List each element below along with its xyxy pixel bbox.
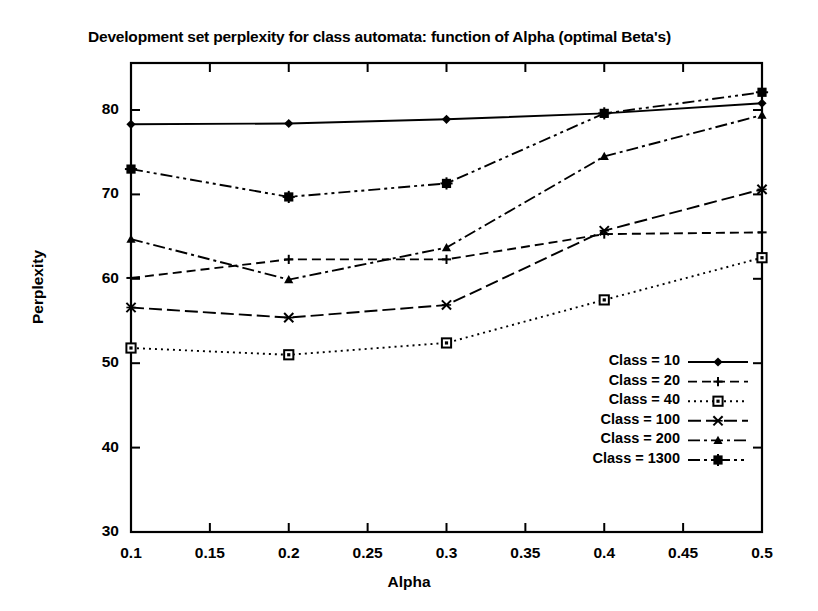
legend-entry-label: Class = 40	[530, 391, 680, 407]
y-tick-label: 50	[79, 353, 119, 371]
data-point-marker	[600, 295, 609, 304]
data-point-marker	[442, 243, 451, 251]
x-tick-label: 0.15	[180, 544, 240, 562]
legend-group	[688, 357, 748, 466]
data-point-marker	[442, 255, 451, 264]
data-point-marker	[440, 177, 452, 189]
data-point-marker	[442, 338, 451, 347]
data-point-marker	[284, 255, 293, 264]
y-tick-label: 30	[79, 522, 119, 540]
data-point-marker	[756, 86, 768, 98]
x-tick-label: 0.1	[101, 544, 161, 562]
y-tick-label: 80	[79, 100, 119, 118]
data-point-marker	[284, 119, 293, 128]
data-point-marker	[442, 115, 451, 124]
x-tick-label: 0.45	[653, 544, 713, 562]
y-tick-label: 70	[79, 184, 119, 202]
x-tick-label: 0.35	[495, 544, 555, 562]
series-line-3	[131, 189, 762, 317]
legend-entry-label: Class = 1300	[530, 450, 680, 466]
data-point-marker	[284, 350, 293, 359]
x-tick-label: 0.5	[732, 544, 792, 562]
x-tick-label: 0.25	[338, 544, 398, 562]
data-point-marker	[442, 300, 451, 309]
plot-area	[0, 0, 818, 611]
data-point-marker	[757, 228, 766, 237]
chart-figure: Development set perplexity for class aut…	[0, 0, 818, 611]
data-point-marker	[126, 120, 135, 129]
data-point-marker	[125, 163, 137, 175]
y-tick-label: 40	[79, 438, 119, 456]
data-point-marker	[126, 235, 135, 243]
data-point-marker	[757, 253, 766, 262]
data-point-marker	[712, 454, 724, 466]
x-tick-label: 0.2	[259, 544, 319, 562]
legend-entry-label: Class = 200	[530, 430, 680, 446]
data-point-marker	[598, 107, 610, 119]
data-point-marker	[284, 313, 293, 322]
legend-entry-label: Class = 100	[530, 411, 680, 427]
x-tick-label: 0.4	[574, 544, 634, 562]
data-point-marker	[713, 377, 722, 386]
data-point-marker	[126, 273, 135, 282]
data-point-marker	[713, 397, 722, 406]
legend-entry-label: Class = 20	[530, 372, 680, 388]
data-point-marker	[283, 191, 295, 203]
legend-entry-label: Class = 10	[530, 352, 680, 368]
data-point-marker	[713, 357, 722, 366]
y-tick-label: 60	[79, 269, 119, 287]
data-point-marker	[757, 99, 766, 108]
x-tick-label: 0.3	[417, 544, 477, 562]
data-point-marker	[126, 343, 135, 352]
data-point-marker	[713, 416, 722, 425]
data-point-marker	[757, 110, 766, 118]
